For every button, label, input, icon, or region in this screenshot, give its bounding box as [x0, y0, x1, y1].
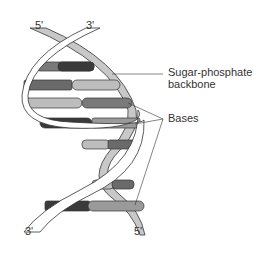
label-bases: Bases [168, 112, 199, 124]
dna-helix-diagram [0, 0, 262, 255]
label-5-prime-top: 5' [35, 19, 43, 31]
label-backbone: backbone [168, 78, 216, 90]
label-5-prime-bottom: 5' [134, 225, 142, 237]
label-3-prime-top: 3' [86, 19, 94, 31]
label-sugar-phosphate: Sugar-phosphate [168, 66, 252, 78]
label-3-prime-bottom: 3' [25, 225, 33, 237]
